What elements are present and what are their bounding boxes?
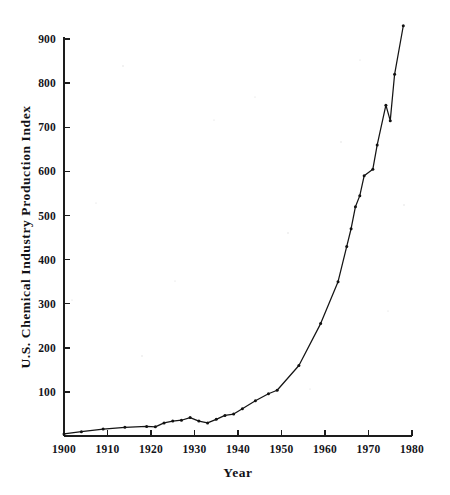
x-tick-label: 1950: [270, 443, 294, 455]
y-tick-label: 700: [38, 121, 56, 133]
data-point: [267, 392, 270, 395]
data-point: [63, 432, 66, 435]
line-chart: 100200300400500600700800900 190019101920…: [0, 0, 450, 495]
data-point: [376, 143, 379, 146]
data-point: [345, 245, 348, 248]
data-point: [254, 399, 257, 402]
data-point: [402, 24, 405, 27]
data-point: [189, 416, 192, 419]
data-point: [297, 364, 300, 367]
data-point: [145, 425, 148, 428]
x-axis-ticks: 190019101920193019401950196019701980: [52, 430, 424, 455]
data-point: [371, 168, 374, 171]
y-tick-label: 900: [38, 33, 56, 45]
chart-figure: 100200300400500600700800900 190019101920…: [0, 0, 450, 495]
data-point: [358, 194, 361, 197]
data-point: [350, 227, 353, 230]
data-point: [123, 426, 126, 429]
y-axis-title: U.S. Chemical Industry Production Index: [18, 105, 33, 368]
y-tick-label: 400: [38, 254, 56, 266]
data-point: [171, 420, 174, 423]
data-series-points: [63, 24, 405, 435]
data-point: [319, 322, 322, 325]
data-point: [197, 420, 200, 423]
x-tick-label: 1930: [183, 443, 207, 455]
x-tick-label: 1920: [139, 443, 163, 455]
x-axis-title: Year: [223, 465, 252, 480]
data-point: [206, 421, 209, 424]
y-tick-label: 100: [38, 386, 56, 398]
data-point: [180, 419, 183, 422]
data-series-line: [64, 26, 403, 434]
data-point: [393, 73, 396, 76]
data-point: [163, 421, 166, 424]
y-tick-label: 600: [38, 165, 56, 177]
y-tick-label: 300: [38, 298, 56, 310]
data-point: [354, 205, 357, 208]
data-point: [223, 414, 226, 417]
x-tick-label: 1970: [357, 443, 381, 455]
y-tick-label: 500: [38, 210, 56, 222]
data-point: [276, 389, 279, 392]
data-point: [154, 425, 157, 428]
data-point: [215, 418, 218, 421]
x-tick-label: 1960: [313, 443, 337, 455]
data-point: [363, 174, 366, 177]
data-point: [241, 407, 244, 410]
data-point: [384, 104, 387, 107]
data-point: [232, 413, 235, 416]
x-tick-label: 1900: [52, 443, 76, 455]
x-tick-label: 1910: [96, 443, 120, 455]
data-point: [80, 430, 83, 433]
x-tick-label: 1940: [226, 443, 250, 455]
data-point: [102, 428, 105, 431]
data-point: [337, 280, 340, 283]
y-tick-label: 800: [38, 77, 56, 89]
data-point: [389, 119, 392, 122]
y-tick-label: 200: [38, 342, 56, 354]
x-tick-label: 1980: [400, 443, 424, 455]
y-axis-ticks: 100200300400500600700800900: [38, 33, 70, 398]
